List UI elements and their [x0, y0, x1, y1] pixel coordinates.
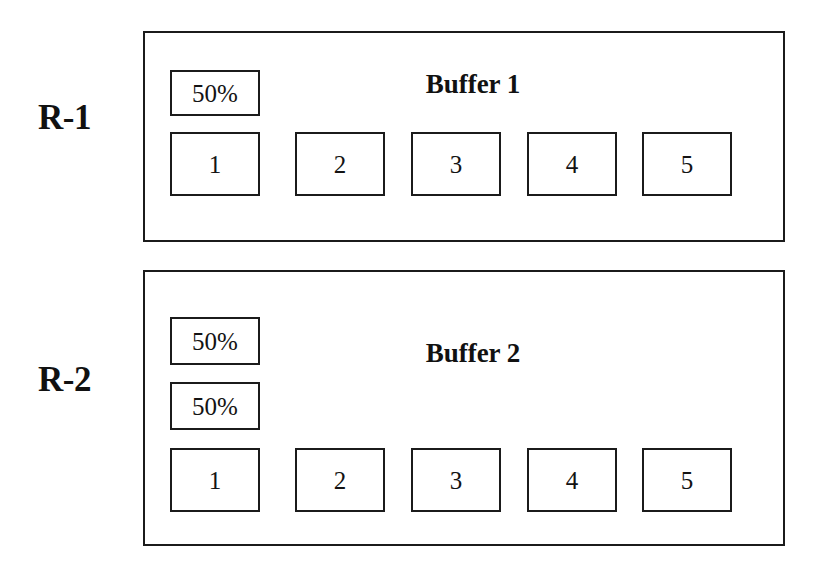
allocation-cell-r2-2: 50%	[170, 382, 260, 430]
slot-cell-r2-5: 5	[642, 448, 732, 512]
slot-cell-r1-1: 1	[170, 132, 260, 196]
slot-cell-r2-4: 4	[527, 448, 617, 512]
allocation-cell-r1-1: 50%	[170, 70, 260, 116]
slot-cell-r1-3: 3	[411, 132, 501, 196]
slot-cell-r1-4: 4	[527, 132, 617, 196]
slot-cell-r1-2: 2	[295, 132, 385, 196]
slot-cell-r1-5: 5	[642, 132, 732, 196]
diagram-canvas: R-1 Buffer 1 50% 1 2 3 4 5 R-2 Buffer 2 …	[0, 0, 822, 573]
allocation-cell-r2-1: 50%	[170, 317, 260, 365]
buffer-title-1: Buffer 1	[373, 71, 573, 98]
resource-label-r1: R-1	[38, 100, 91, 135]
slot-cell-r2-2: 2	[295, 448, 385, 512]
slot-cell-r2-3: 3	[411, 448, 501, 512]
buffer-container-1: Buffer 1 50% 1 2 3 4 5	[143, 31, 785, 242]
buffer-title-2: Buffer 2	[373, 340, 573, 367]
resource-label-r2: R-2	[38, 362, 91, 397]
buffer-container-2: Buffer 2 50% 50% 1 2 3 4 5	[143, 270, 785, 546]
slot-cell-r2-1: 1	[170, 448, 260, 512]
